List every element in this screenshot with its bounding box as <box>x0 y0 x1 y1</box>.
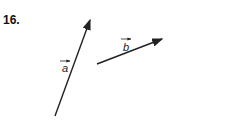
vector-b: b <box>97 39 162 64</box>
vector-a: a <box>55 20 90 116</box>
vector-a-label: a <box>62 62 68 74</box>
vector-diagram: a b <box>0 0 229 135</box>
vector-b-label: b <box>123 41 129 53</box>
